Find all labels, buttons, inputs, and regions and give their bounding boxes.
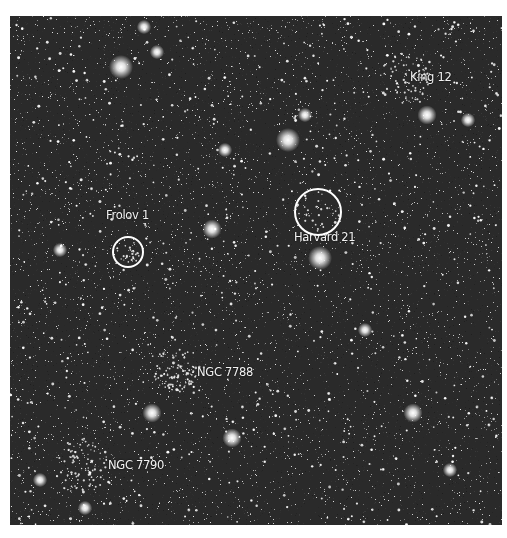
star-field-canvas	[10, 16, 502, 525]
star-field-image	[10, 16, 502, 525]
cluster-circle-frolov-1	[112, 236, 144, 268]
cluster-label-king-12: King 12	[410, 70, 452, 84]
cluster-label-ngc-7790: NGC 7790	[108, 458, 164, 472]
cluster-label-frolov-1: Frolov 1	[106, 208, 149, 222]
cluster-label-ngc-7788: NGC 7788	[197, 365, 253, 379]
cluster-circle-harvard-21	[294, 188, 342, 236]
